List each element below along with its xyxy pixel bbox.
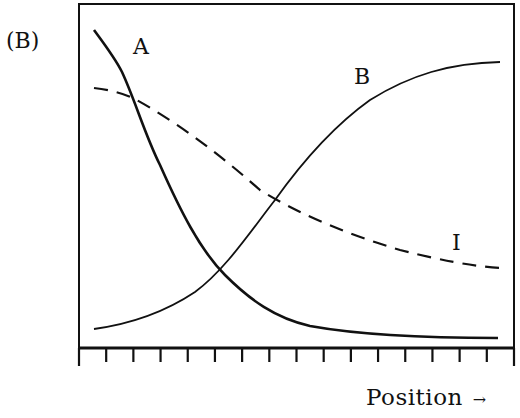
x-axis-ticks <box>79 348 514 366</box>
arrow-right-icon: → <box>473 390 487 409</box>
curve-label-a: A <box>132 34 150 59</box>
curve-label-b: B <box>354 64 370 89</box>
x-axis-label-text: Position <box>366 384 463 410</box>
curve-i <box>94 88 500 268</box>
x-axis-label: Position→ <box>366 384 487 410</box>
curve-b <box>94 62 500 329</box>
curve-a <box>94 30 498 338</box>
curve-label-i: I <box>452 230 461 255</box>
chart-plot: A B I <box>0 0 520 418</box>
